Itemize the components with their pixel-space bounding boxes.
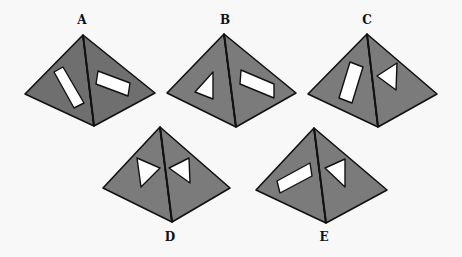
pyramid-option-e[interactable] <box>256 128 387 223</box>
pyramid-option-d[interactable] <box>103 127 230 222</box>
pyramid-option-b[interactable] <box>167 34 296 127</box>
pyramids-drawing <box>0 0 462 257</box>
pyramid-left-face <box>308 34 378 127</box>
pyramid-right-face <box>367 34 437 127</box>
option-label-d: D <box>165 231 175 243</box>
option-label-b: B <box>220 14 230 26</box>
pyramid-option-c[interactable] <box>308 34 437 127</box>
option-label-a: A <box>77 14 86 26</box>
figure-canvas: A B C D E <box>0 0 462 257</box>
option-label-c: C <box>362 14 372 26</box>
option-label-e: E <box>319 231 328 243</box>
pyramid-option-a[interactable] <box>25 35 155 126</box>
